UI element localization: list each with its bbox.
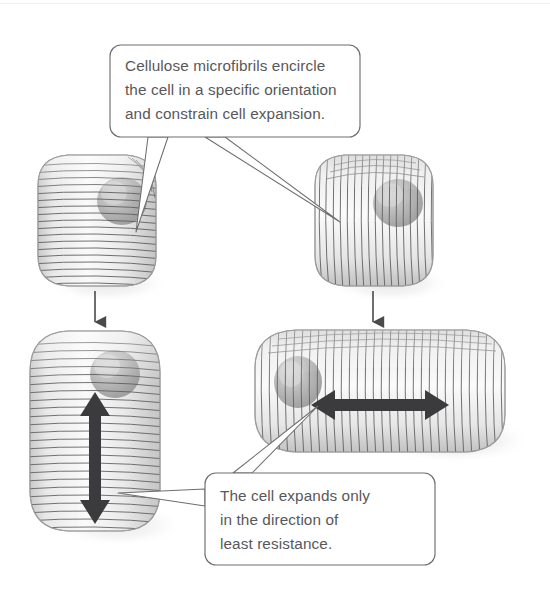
diagram-artboard [0,0,550,607]
callout-bottom-box [205,473,435,565]
cell-top-right [315,150,434,292]
cell-bottom-right [255,325,505,458]
figure-canvas: Cellulose microfibrils encircle the cell… [0,0,550,607]
callout-top-box [110,45,360,137]
cell-bottom-left [24,331,166,531]
